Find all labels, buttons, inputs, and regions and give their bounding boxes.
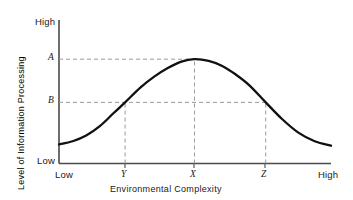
y-axis-low-label: Low [37, 156, 55, 166]
x-tick-label-x: X [190, 170, 196, 180]
x-axis-title: Environmental Complexity [110, 185, 222, 194]
y-axis-title-wrapper: Level of Information Processing [16, 0, 32, 190]
x-tick-label-z: Z [261, 170, 266, 180]
y-level-b-label: B [48, 96, 54, 106]
x-axis-low-label: Low [55, 170, 73, 180]
x-axis-high-label: High [318, 170, 338, 180]
chart-figure: High Low A B Low Y X Z High Environmenta… [0, 0, 353, 200]
y-level-a-label: A [48, 53, 54, 63]
y-axis-high-label: High [35, 17, 55, 27]
y-axis-title: Level of Information Processing [16, 0, 26, 190]
x-tick-label-y: Y [121, 170, 126, 180]
